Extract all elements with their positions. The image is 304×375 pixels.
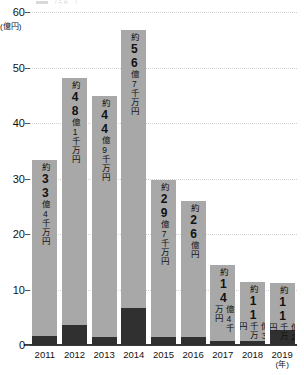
bar-chart: （うち…） 0102030405060(億円)約33億4千万円2011約48億1… [0,0,304,375]
bar: 約44億9千万円 [92,96,117,345]
legend-swatch-icon [36,1,48,4]
bar-value-label: 約11億3千万円 [240,285,265,342]
bar-value-label: 約56億7千万円 [121,33,146,342]
bar-label-number: 33 [39,172,50,200]
bar-label-prefix: 約 [39,163,50,172]
plot-area: 0102030405060(億円)約33億4千万円2011約48億1千万円201… [30,12,297,345]
bar-label-number: 56 [128,42,139,70]
x-axis-tick-label: 2012 [60,349,90,360]
y-axis-tick-label: 20 [13,229,25,240]
bar-label-number: 48 [69,90,80,118]
x-axis-unit-label: (年) [267,360,297,369]
bar-label-suffix: 億4千万円 [39,200,50,246]
bar-value-label: 約48億1千万円 [62,81,87,342]
bar-label-suffix: 億9千万円 [99,136,110,182]
y-axis-tick-label: 10 [13,284,25,295]
bar-label-prefix: 約 [69,81,80,90]
bar-label-suffix: 億1千万円 [69,118,80,164]
bar: 約11億3千万円 [240,282,265,345]
bar-label-prefix: 約 [128,33,139,42]
bar-label-number: 29 [158,192,169,220]
bar: 約56億7千万円 [121,30,146,345]
bar-label-prefix: 約 [188,204,199,213]
y-axis-tick-label: 30 [13,173,25,184]
x-axis-tick-label: 2013 [89,349,119,360]
x-axis-tick-label: 2019 [267,349,297,360]
x-axis-tick-label: 2017 [208,349,238,360]
bar-label-suffix: 億7千万円 [158,220,169,266]
y-axis-tick-mark [25,123,30,124]
bar: 約33億4千万円 [32,160,57,345]
legend-sliver-label: （うち…） [51,0,81,4]
x-axis-tick-label: 2016 [178,349,208,360]
bar-label-prefix: 約 [277,286,288,295]
y-axis-tick-mark [25,345,30,346]
bar-label-number: 11 [247,294,258,322]
x-axis-tick-label: 2014 [119,349,149,360]
y-axis-tick-mark [25,290,30,291]
bar-value-label: 約29億7千万円 [151,183,176,342]
bar-label-prefix: 約 [217,268,228,277]
y-axis-tick-mark [25,12,30,13]
bar-label-suffix: 億7千万円 [128,70,139,116]
bar-label-number: 11 [277,295,288,323]
bar: 約14億4千万円 [210,265,235,345]
bar-value-label: 約44億9千万円 [92,99,117,342]
bar: 約11億2千万円 [270,283,295,345]
bar-label-suffix: 億円 [188,241,199,259]
bar-label-suffix: 億2千万円 [270,323,295,342]
bar-label-number: 44 [99,108,110,136]
y-axis-tick-label: 50 [13,62,25,73]
y-axis-tick-label: 60 [13,7,25,18]
bar-label-suffix: 億4千万円 [212,305,234,342]
y-axis-tick-mark [25,179,30,180]
bar: 約26億円 [181,201,206,345]
y-axis-unit-label: (億円) [0,23,21,31]
gridline [30,12,297,13]
legend-sliver: （うち…） [36,0,126,4]
x-axis-tick-label: 2015 [149,349,179,360]
bar-label-prefix: 約 [99,99,110,108]
bar-value-label: 約33億4千万円 [32,163,57,342]
x-axis-tick-label: 2018 [238,349,268,360]
bar: 約48億1千万円 [62,78,87,345]
bar-value-label: 約11億2千万円 [270,286,295,342]
bar-label-prefix: 約 [158,183,169,192]
y-axis-tick-label: 40 [13,118,25,129]
y-axis-tick-mark [25,68,30,69]
bar: 約29億7千万円 [151,180,176,345]
x-axis-tick-label: 2011 [30,349,60,360]
bar-value-label: 約26億円 [181,204,206,342]
bar-label-suffix: 億3千万円 [240,322,265,342]
gridline [30,68,297,69]
bar-value-label: 約14億4千万円 [210,268,235,342]
y-axis-tick-mark [25,234,30,235]
bar-label-number: 26 [188,213,199,241]
bar-label-prefix: 約 [247,285,258,294]
bar-label-number: 14 [217,277,228,305]
